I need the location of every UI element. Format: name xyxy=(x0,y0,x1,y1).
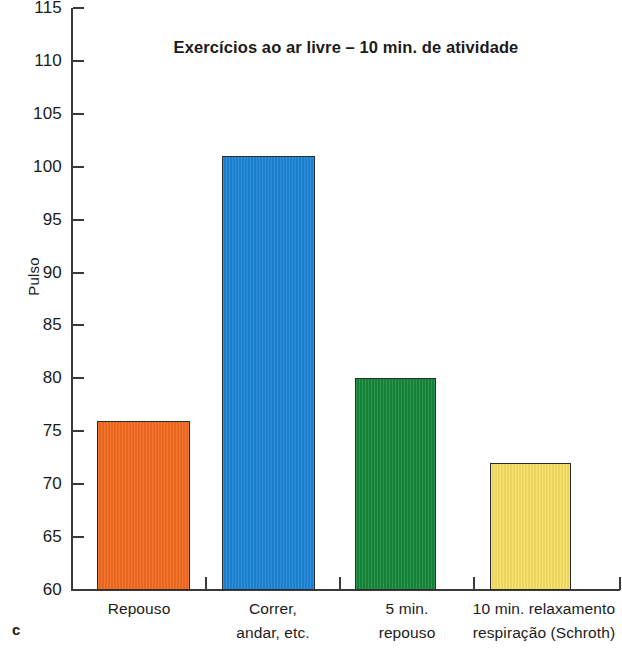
bar-texture xyxy=(98,422,189,589)
y-axis-tick-label: 105 xyxy=(0,105,62,122)
x-axis-tick-label-line: 5 min. xyxy=(340,597,474,621)
bar-chart-figure: Pulso 1151101051009590858075706560 Exerc… xyxy=(0,0,622,651)
x-axis-tick-label-line: Repouso xyxy=(72,597,206,621)
y-axis-tick-labels: 1151101051009590858075706560 xyxy=(0,0,62,600)
y-axis-tick-label: 80 xyxy=(0,369,62,386)
bar xyxy=(355,378,436,590)
bar-texture xyxy=(356,379,435,589)
y-axis-tick-label: 90 xyxy=(0,264,62,281)
y-axis-tick-label: 65 xyxy=(0,528,62,545)
panel-letter: c xyxy=(12,621,20,638)
bar-texture xyxy=(491,464,570,589)
x-axis-tick-label-line: 10 min. relaxamento xyxy=(466,597,622,621)
x-axis-tick-label-line: andar, etc. xyxy=(206,621,340,645)
bar-texture xyxy=(223,157,314,589)
bar xyxy=(222,156,315,590)
x-axis-tick-label: Repouso xyxy=(72,597,206,621)
x-axis-tick-label: 5 min.repouso xyxy=(340,597,474,645)
x-axis-tick-labels: RepousoCorrer,andar, etc.5 min.repouso10… xyxy=(72,597,622,651)
x-axis-tick-label: 10 min. relaxamentorespiração (Schroth) xyxy=(466,597,622,645)
y-axis-tick-label: 70 xyxy=(0,475,62,492)
plot-area xyxy=(72,8,620,590)
bar xyxy=(97,421,190,590)
x-axis-tick-label: Correr,andar, etc. xyxy=(206,597,340,645)
y-axis-tick-label: 95 xyxy=(0,211,62,228)
bar xyxy=(490,463,571,590)
y-axis-tick-label: 110 xyxy=(0,52,62,69)
y-axis-tick-label: 115 xyxy=(0,0,62,16)
x-axis-tick-label-line: respiração (Schroth) xyxy=(466,621,622,645)
x-axis-tick-label-line: Correr, xyxy=(206,597,340,621)
y-axis-tick-label: 100 xyxy=(0,158,62,175)
y-axis-tick-label: 60 xyxy=(0,581,62,598)
y-axis-tick-label: 85 xyxy=(0,316,62,333)
x-axis-tick-label-line: repouso xyxy=(340,621,474,645)
y-axis-tick-label: 75 xyxy=(0,422,62,439)
